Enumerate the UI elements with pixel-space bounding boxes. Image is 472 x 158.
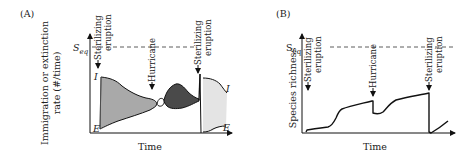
panel-a-y-axis-label: Immigration or extinction rate (#/time) [39, 21, 62, 145]
svg-text:rate (#/time): rate (#/time) [51, 52, 62, 115]
panel-b-x-axis-label: Time [363, 141, 387, 152]
panel-b-event-hurricane: Hurricane [368, 44, 378, 96]
panel-a-label: (A) [20, 8, 34, 19]
panel-a-extinction-label: E [92, 123, 100, 134]
panel-b-richness-line [306, 93, 448, 133]
svg-text:Sterilizing: Sterilizing [193, 20, 203, 65]
panel-a-event-eruption-1: Sterilizing eruption [93, 14, 113, 68]
svg-text:Sterilizing: Sterilizing [424, 37, 434, 82]
panel-b-label: (B) [276, 8, 290, 19]
figure: (A) Immigration or extinction rate (#/ti… [0, 0, 472, 158]
svg-text:eruption: eruption [313, 36, 323, 73]
svg-text:Immigration or extinction: Immigration or extinction [39, 21, 50, 145]
panel-a-extinction-label-2: E [222, 122, 230, 133]
svg-text:eruption: eruption [203, 19, 213, 56]
panel-b: (B) Species richness Seq Sterilizing eru… [276, 8, 455, 152]
svg-text:Species richness: Species richness [287, 48, 298, 129]
svg-text:Sterilizing: Sterilizing [93, 15, 103, 60]
panel-b-event-eruption-2: Sterilizing eruption [424, 36, 444, 90]
panel-a: (A) Immigration or extinction rate (#/ti… [20, 8, 232, 152]
panel-b-y-axis-label: Species richness [287, 48, 298, 129]
svg-text:eruption: eruption [434, 36, 444, 73]
svg-text:Hurricane: Hurricane [147, 38, 157, 82]
panel-a-event-eruption-2: Sterilizing eruption [193, 19, 213, 73]
panel-a-immigration-label: I [93, 71, 98, 82]
panel-a-x-axis-label: Time [138, 141, 162, 152]
panel-a-crossing-loop [157, 98, 164, 106]
panel-a-phase2-area [164, 84, 199, 109]
svg-text:Sterilizing: Sterilizing [303, 37, 313, 82]
panel-a-seq-label: Seq [73, 42, 89, 56]
svg-text:eruption: eruption [103, 14, 113, 51]
panel-a-event-hurricane: Hurricane [147, 38, 157, 89]
panel-b-event-eruption-1: Sterilizing eruption [303, 36, 323, 90]
panel-a-phase1-area [100, 77, 157, 129]
panel-a-immigration-label-2: I [225, 83, 230, 94]
svg-text:Hurricane: Hurricane [368, 44, 378, 88]
